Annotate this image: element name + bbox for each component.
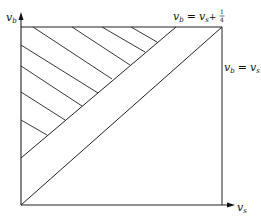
svg-text:4: 4 [220, 16, 224, 23]
hatched-region [21, 27, 157, 135]
label-vb-eq-vs-plus-quarter: vb=vs+ 1 4 [173, 8, 225, 24]
svg-text:1: 1 [220, 8, 224, 15]
y-axis-label: vb [6, 11, 17, 25]
x-axis-arrow-icon [227, 203, 235, 208]
valuation-region-diagram: vb vs vb=vs+ 1 4 vb=vs [0, 0, 261, 221]
line-vb-eq-vs [21, 27, 222, 205]
line-vb-eq-vs-plus-quarter [21, 27, 176, 158]
svg-text:vb=vs+: vb=vs+ [173, 10, 216, 24]
label-vb-eq-vs: vb=vs [224, 61, 260, 75]
y-axis-arrow-icon [19, 12, 24, 20]
x-axis-label: vs [237, 201, 247, 215]
